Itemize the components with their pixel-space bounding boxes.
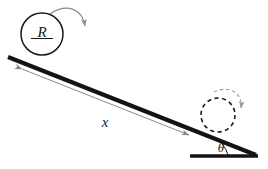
inclined-plane-diagram: x θ R: [0, 0, 268, 169]
physics-diagram-canvas: x θ R: [0, 0, 268, 169]
angle-label: θ: [218, 140, 225, 155]
distance-label: x: [101, 114, 109, 130]
radius-label: R: [36, 24, 46, 40]
